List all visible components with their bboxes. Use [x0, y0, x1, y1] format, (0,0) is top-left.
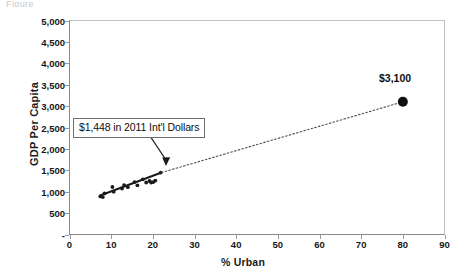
- x-tick-label: 70: [346, 239, 376, 250]
- y-tick-label: 3,500: [19, 79, 65, 90]
- figure-area: Figure GDP Per Capita % Urban -5001,0001…: [0, 0, 460, 276]
- x-tick-label: 40: [221, 239, 251, 250]
- x-tick-label: 30: [180, 239, 210, 250]
- y-tick-label: 1,000: [19, 186, 65, 197]
- y-tick-mark: [65, 106, 69, 107]
- highlight-point-label: $3,100: [379, 72, 411, 84]
- y-axis-ticks: -5001,0001,5002,0002,5003,0003,5004,0004…: [15, 0, 65, 276]
- x-tick-label: 80: [388, 239, 418, 250]
- y-tick-label: 4,500: [19, 36, 65, 47]
- x-tick-mark: [195, 235, 196, 239]
- y-tick-label: 5,000: [19, 15, 65, 26]
- x-tick-label: 0: [55, 239, 85, 250]
- x-tick-mark: [445, 235, 446, 239]
- y-tick-mark: [65, 63, 69, 64]
- y-tick-mark: [65, 85, 69, 86]
- x-tick-label: 90: [430, 239, 460, 250]
- x-tick-label: 50: [263, 239, 293, 250]
- y-tick-mark: [65, 21, 69, 22]
- x-tick-mark: [403, 235, 404, 239]
- chart-screenshot: Figure GDP Per Capita % Urban -5001,0001…: [0, 0, 460, 276]
- y-tick-mark: [65, 170, 69, 171]
- annotation-callout: $1,448 in 2011 Int'l Dollars: [73, 118, 205, 138]
- y-tick-mark: [65, 42, 69, 43]
- x-tick-mark: [361, 235, 362, 239]
- y-tick-mark: [65, 149, 69, 150]
- y-tick-mark: [65, 213, 69, 214]
- y-tick-label: 1,500: [19, 165, 65, 176]
- y-tick-mark: [65, 235, 69, 236]
- x-tick-label: 10: [96, 239, 126, 250]
- x-tick-label: 20: [138, 239, 168, 250]
- y-tick-label: 3,000: [19, 101, 65, 112]
- y-tick-mark: [65, 128, 69, 129]
- y-tick-label: 4,000: [19, 58, 65, 69]
- x-tick-mark: [153, 235, 154, 239]
- y-tick-label: 2,500: [19, 122, 65, 133]
- x-tick-label: 60: [305, 239, 335, 250]
- y-tick-mark: [65, 192, 69, 193]
- y-tick-label: 500: [19, 208, 65, 219]
- x-tick-mark: [320, 235, 321, 239]
- x-tick-mark: [236, 235, 237, 239]
- x-tick-mark: [111, 235, 112, 239]
- y-tick-label: 2,000: [19, 143, 65, 154]
- x-tick-mark: [278, 235, 279, 239]
- x-axis-title: % Urban: [0, 256, 460, 268]
- x-tick-mark: [70, 235, 71, 239]
